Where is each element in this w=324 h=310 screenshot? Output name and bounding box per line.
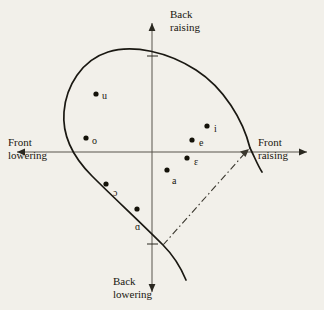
data-point — [134, 206, 139, 211]
data-point — [184, 155, 189, 160]
axis-label-line2: lowering — [113, 288, 152, 301]
axis-label-line1: Front — [8, 136, 47, 149]
arrowhead-icon — [240, 149, 249, 157]
axis-label-front-lowering: Front lowering — [8, 136, 47, 162]
vowel-label: ɔ — [113, 187, 117, 198]
data-point — [189, 137, 194, 142]
vowel-space-outline — [64, 49, 262, 280]
data-point — [103, 181, 108, 186]
data-point — [93, 91, 98, 96]
arrow-right-icon — [299, 149, 307, 156]
dash-dot-arrow — [163, 149, 249, 245]
axis-label-line1: Back — [170, 8, 200, 21]
axis-label-line2: lowering — [8, 149, 47, 162]
vowel-label: ɑ — [135, 221, 140, 232]
axis-label-line1: Front — [258, 136, 288, 149]
data-point — [164, 167, 169, 172]
vowel-label: e — [199, 137, 203, 148]
vowel-space-figure: Back raising Back lowering Front lowerin… — [0, 0, 324, 310]
axis-label-back-raising: Back raising — [170, 8, 200, 34]
vertical-axis — [147, 23, 158, 292]
vowel-label: a — [172, 175, 176, 186]
axis-label-front-raising: Front raising — [258, 136, 288, 162]
data-point — [204, 123, 209, 128]
axis-label-line2: raising — [170, 21, 200, 34]
vowel-label: o — [92, 135, 97, 146]
arrow-up-icon — [149, 23, 156, 31]
axis-label-line1: Back — [113, 275, 152, 288]
vowel-label: ɛ — [194, 156, 198, 167]
data-point — [83, 135, 88, 140]
axis-label-back-lowering: Back lowering — [113, 275, 152, 301]
vowel-label: u — [102, 90, 107, 101]
vowel-label: i — [214, 123, 217, 134]
axis-label-line2: raising — [258, 149, 288, 162]
